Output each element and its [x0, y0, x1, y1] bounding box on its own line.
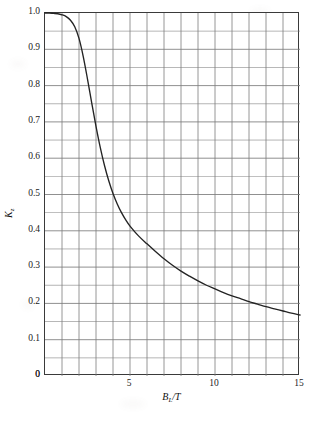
y-axis-title-subscript: z	[8, 209, 16, 212]
x-axis-title: BL/T	[44, 392, 299, 404]
plot-area	[44, 12, 299, 375]
y-axis-title: Kz	[4, 209, 16, 218]
x-tick-label: 15	[284, 379, 314, 389]
y-tick-label: 0.2	[0, 297, 40, 307]
data-curve	[45, 13, 300, 376]
y-axis-title-main: K	[3, 211, 14, 218]
y-tick-label: 0.1	[0, 334, 40, 344]
y-tick-label: 0.5	[0, 189, 40, 199]
x-tick-label: 10	[199, 379, 229, 389]
y-tick-label: 0.6	[0, 152, 40, 162]
chart-figure: 1.00.90.80.70.60.50.40.30.20.10 051015 B…	[0, 0, 315, 421]
y-tick-label: 0.8	[0, 80, 40, 90]
y-tick-label: 0.9	[0, 43, 40, 53]
scan-noise	[10, 60, 26, 68]
x-tick-label: 5	[114, 379, 144, 389]
x-axis-title-tail: /T	[172, 391, 180, 402]
y-tick-label: 0.3	[0, 261, 40, 271]
y-tick-label: 0.4	[0, 225, 40, 235]
x-origin-label: 0	[0, 370, 40, 380]
y-tick-label: 1.0	[0, 7, 40, 17]
y-tick-label: 0.7	[0, 116, 40, 126]
